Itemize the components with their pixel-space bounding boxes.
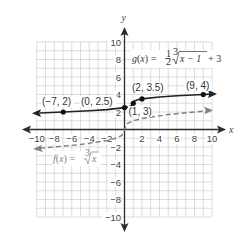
label-neg7-2: (−7, 2) [42,96,71,107]
svg-text:−4: −4 [110,159,121,170]
f-right-arrow-icon [204,107,213,115]
svg-text:−8: −8 [110,194,121,205]
chart-canvas: x y −10 −8 −6 −4 −2 2 4 6 8 10 10 8 6 4 … [0,0,249,249]
svg-text:8: 8 [192,133,197,144]
svg-text:f(x) =: f(x) = [53,153,75,165]
y-axis-label: y [121,12,127,23]
svg-text:−6: −6 [110,177,121,188]
g-equation-label: g(x) = 1 2 3 x − 1 + 3 [131,46,227,68]
svg-text:4: 4 [157,133,162,144]
point-0-2.5 [122,105,127,110]
svg-text:+ 3: + 3 [208,53,221,64]
svg-text:−10: −10 [105,212,121,223]
svg-text:10: 10 [110,37,121,48]
label-0-2.5: (0, 2.5) [81,96,113,107]
svg-text:8: 8 [116,54,121,65]
svg-text:3: 3 [85,147,90,158]
svg-text:6: 6 [116,72,121,83]
point-9-4 [201,92,206,97]
svg-text:−6: −6 [66,133,77,144]
svg-text:x: x [91,153,97,164]
point-2-3.5 [139,96,144,101]
svg-text:−10: −10 [29,133,45,144]
label-1-3: (1, 3) [129,106,152,117]
svg-text:6: 6 [174,133,179,144]
point-neg7-2 [61,109,66,114]
label-9-4: (9, 4) [186,80,209,91]
svg-text:3: 3 [173,46,178,57]
svg-text:−8: −8 [49,133,60,144]
svg-text:2: 2 [166,56,171,67]
svg-text:10: 10 [207,133,218,144]
f-equation-label: f(x) = 3 x [53,147,101,166]
svg-text:2: 2 [139,133,144,144]
svg-text:g(x) =: g(x) = [132,53,157,65]
svg-text:x − 1: x − 1 [179,53,201,64]
svg-text:−4: −4 [84,133,95,144]
label-2-3.5: (2, 3.5) [132,82,164,93]
x-axis-label: x [228,124,234,135]
svg-text:−2: −2 [110,142,121,153]
